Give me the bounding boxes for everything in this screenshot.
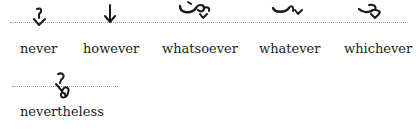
word-label-whatsoever: whatsoever — [162, 41, 238, 57]
word-label-however: however — [83, 41, 139, 57]
however-shorthand-outline-icon — [101, 3, 119, 27]
outline-row-2: nevertheless — [0, 70, 416, 130]
whichever-shorthand-outline-icon — [357, 2, 385, 24]
whatever-shorthand-outline-icon — [271, 2, 305, 18]
word-label-never: never — [20, 41, 57, 57]
word-label-whatever: whatever — [259, 41, 320, 57]
outline-row-1: never however whatsoever whatever — [0, 0, 416, 62]
dotted-baseline — [10, 22, 408, 23]
whatsoever-shorthand-outline-icon — [178, 0, 212, 20]
word-label-whichever: whichever — [344, 41, 412, 57]
word-label-nevertheless: nevertheless — [20, 104, 104, 120]
nevertheless-shorthand-outline-icon — [53, 71, 73, 103]
never-shorthand-outline-icon — [30, 6, 50, 28]
